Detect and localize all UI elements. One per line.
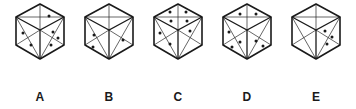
cube-c [148,0,208,84]
cube-c-drawing [149,0,207,80]
label-row: A B C D E [0,84,356,109]
cube-d [217,0,277,84]
cube-label-a: A [10,90,70,104]
cube-label-e: E [286,90,346,104]
cube-label-b: B [79,90,139,104]
cube-label-d: D [217,90,277,104]
cube-e-drawing [287,0,345,80]
cube-b-drawing [80,0,138,80]
cube-e [286,0,346,84]
cube-d-drawing [218,0,276,80]
cube-a [10,0,70,84]
cube-b [79,0,139,84]
cube-a-drawing [11,0,69,80]
dice-puzzle-figure: A B C D E [0,0,356,109]
cube-row [0,0,356,84]
cube-label-c: C [148,90,208,104]
